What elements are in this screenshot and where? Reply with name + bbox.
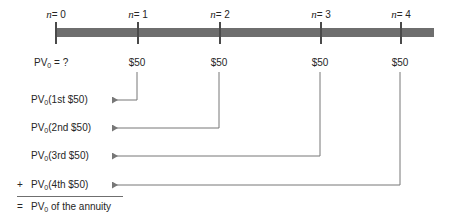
pv-total-text: of the annuity — [48, 201, 111, 212]
pv-subscript: 0 — [44, 184, 48, 191]
pv-row-text: (1st $50) — [48, 94, 87, 105]
pv-total-row: PV0 of the annuity — [31, 201, 111, 212]
pv-subscript: 0 — [47, 62, 51, 69]
pv-symbol: PV — [31, 150, 44, 161]
period-label-value: = 1 — [134, 9, 148, 20]
cashflow-amount-n4: $50 — [392, 57, 409, 68]
period-label-n4: n= 4 — [391, 8, 411, 20]
timeline-tick-n2 — [219, 22, 221, 44]
summation-rule — [17, 196, 123, 197]
pv-symbol: PV — [34, 57, 47, 68]
timeline-tick-n3 — [320, 22, 322, 44]
pv-row-text: (3rd $50) — [48, 150, 89, 161]
pv-equals-question: = ? — [51, 57, 68, 68]
timeline-bar — [55, 28, 434, 37]
period-label-n2: n= 2 — [210, 8, 230, 20]
period-label-value: = 4 — [397, 9, 411, 20]
pv-subscript: 0 — [44, 155, 48, 162]
plus-sign: + — [17, 179, 23, 190]
pv-row-3rd: PV0(3rd $50) — [31, 150, 89, 161]
pv-subscript: 0 — [44, 127, 48, 134]
period-label-value: = 2 — [216, 9, 230, 20]
pv-row-1st: PV0(1st $50) — [31, 94, 88, 105]
pv-symbol: PV — [31, 94, 44, 105]
connector-1st-50 — [112, 72, 137, 100]
pv-row-text: (4th $50) — [48, 179, 88, 190]
period-label-n3: n= 3 — [311, 8, 331, 20]
timeline-tick-n0 — [55, 22, 57, 44]
pv-symbol: PV — [31, 201, 44, 212]
connector-3rd-50 — [112, 72, 320, 156]
cashflow-amount-n1: $50 — [129, 57, 146, 68]
equals-sign: = — [17, 201, 23, 212]
pv-subscript: 0 — [44, 206, 48, 213]
pv-row-4th: PV0(4th $50) — [31, 179, 88, 190]
connector-2nd-50 — [112, 72, 219, 128]
connector-4th-50 — [112, 72, 400, 185]
present-value-annuity-timeline-figure: n= 0 n= 1 n= 2 n= 3 n= 4 PV0 = ? $50 $50… — [0, 0, 457, 216]
timeline-tick-n1 — [137, 22, 139, 44]
pv-symbol: PV — [31, 122, 44, 133]
pv-row-text: (2nd $50) — [48, 122, 91, 133]
present-value-unknown-label: PV0 = ? — [34, 57, 68, 68]
cashflow-amount-n2: $50 — [211, 57, 228, 68]
period-label-value: = 0 — [52, 9, 66, 20]
period-label-n1: n= 1 — [128, 8, 148, 20]
pv-symbol: PV — [31, 179, 44, 190]
timeline-tick-n4 — [400, 22, 402, 44]
period-label-n0: n= 0 — [46, 8, 66, 20]
period-label-value: = 3 — [317, 9, 331, 20]
pv-row-2nd: PV0(2nd $50) — [31, 122, 91, 133]
cashflow-amount-n3: $50 — [312, 57, 329, 68]
pv-subscript: 0 — [44, 99, 48, 106]
